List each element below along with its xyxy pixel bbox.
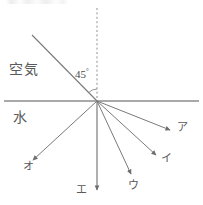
- ray-label-u: ウ: [128, 180, 139, 191]
- degree-symbol: °: [86, 67, 89, 75]
- angle-of-incidence-label: 45°: [75, 68, 89, 80]
- ray-label-a: ア: [177, 122, 188, 133]
- angle-value: 45: [75, 68, 86, 80]
- ray-label-o: オ: [23, 161, 34, 172]
- angle-arc: [89, 89, 97, 93]
- refraction-diagram: 空気 水 45° ア イ ウ エ オ: [0, 0, 203, 205]
- ray-label-i: イ: [161, 153, 172, 164]
- water-medium-label: 水: [13, 111, 28, 125]
- air-medium-label: 空気: [9, 63, 38, 77]
- ray-i-line: [97, 101, 156, 155]
- optics-svg-canvas: [0, 0, 203, 205]
- ray-label-e: エ: [76, 184, 87, 195]
- ray-o-line: [33, 101, 97, 160]
